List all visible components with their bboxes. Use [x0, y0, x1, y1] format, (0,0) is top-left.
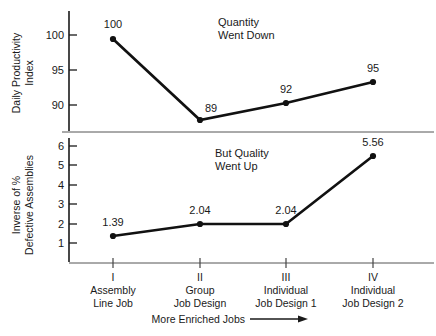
x-category-line1-1: Group: [185, 284, 214, 296]
bottom-point-1: [197, 221, 203, 227]
top-annotation-line1: Quantity: [218, 16, 259, 28]
bottom-point-label-1: 2.04: [189, 204, 210, 216]
x-category-line2-0: Line Job: [93, 297, 133, 309]
top-ytick-label-2: 90: [52, 99, 64, 111]
x-category-line2-1: Job Design: [174, 297, 227, 309]
top-y-axis-title-line2: Index: [23, 59, 35, 85]
x-category-line2-2: Job Design 1: [255, 297, 316, 309]
top-point-3: [370, 79, 376, 85]
x-category-roman-0: I: [112, 271, 115, 283]
bottom-ytick-label-4: 2: [58, 218, 64, 230]
bottom-point-label-0: 1.39: [102, 216, 123, 228]
bottom-y-axis-title-line1: Inverse of %: [10, 176, 22, 234]
enriched-jobs-text: More Enriched Jobs: [152, 313, 245, 325]
top-point-2: [283, 100, 289, 106]
top-point-label-2: 92: [280, 83, 292, 95]
bottom-ytick-label-5: 1: [58, 237, 64, 249]
bottom-ytick-label-0: 6: [58, 140, 64, 152]
bottom-point-3: [370, 153, 376, 159]
bottom-ytick-label-1: 5: [58, 159, 64, 171]
figure-container: 100 95 90 Daily Productivity Index Quant…: [0, 0, 436, 336]
bottom-point-2: [283, 221, 289, 227]
top-point-1: [197, 117, 203, 123]
x-category-roman-1: II: [197, 271, 203, 283]
top-annotation-line2: Went Down: [218, 29, 275, 41]
enriched-jobs-arrow-head: [298, 315, 308, 322]
top-point-0: [110, 36, 116, 42]
top-point-label-1: 89: [205, 102, 217, 114]
x-category-line2-3: Job Design 2: [342, 297, 403, 309]
bottom-annotation-line1: But Quality: [215, 147, 269, 159]
chart-svg: 100 95 90 Daily Productivity Index Quant…: [0, 0, 436, 336]
enriched-jobs-axis-label: More Enriched Jobs: [152, 313, 308, 325]
bottom-y-axis-title-line2: Defective Assemblies: [23, 155, 35, 255]
bottom-point-0: [110, 233, 116, 239]
bottom-point-label-3: 5.56: [362, 136, 383, 148]
x-category-line1-0: Assembly: [90, 284, 136, 296]
bottom-ytick-label-3: 3: [58, 198, 64, 210]
x-category-line1-2: Individual: [264, 284, 308, 296]
top-ytick-label-1: 95: [52, 64, 64, 76]
top-ytick-label-0: 100: [46, 29, 64, 41]
x-category-labels: I II III IV Assembly Group Individual In…: [90, 271, 404, 309]
top-chart: 100 95 90 Daily Productivity Index Quant…: [10, 11, 379, 131]
bottom-annotation-line2: Went Up: [215, 160, 258, 172]
bottom-chart: 6 5 4 3 2 1 Inverse of % Defective Assem…: [10, 136, 434, 268]
top-point-label-0: 100: [104, 18, 122, 30]
top-series-line: [113, 39, 373, 120]
x-category-roman-3: IV: [368, 271, 378, 283]
x-category-line1-3: Individual: [351, 284, 395, 296]
top-y-axis-title-line1: Daily Productivity: [10, 32, 22, 113]
x-category-roman-2: III: [282, 271, 291, 283]
bottom-ytick-label-2: 4: [58, 179, 64, 191]
top-point-label-3: 95: [367, 62, 379, 74]
bottom-point-label-2: 2.04: [275, 204, 296, 216]
